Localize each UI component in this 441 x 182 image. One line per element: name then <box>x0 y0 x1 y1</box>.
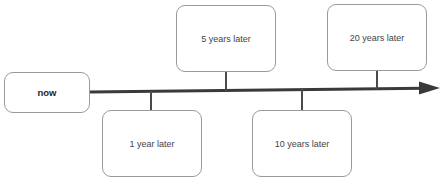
milestone-label: 1 year later <box>129 139 174 149</box>
milestone-label: 10 years later <box>275 139 330 149</box>
start-label: now <box>38 87 57 98</box>
milestone-label: 20 years later <box>350 33 405 43</box>
connector-20-years <box>376 70 378 89</box>
arrow-head-icon <box>419 82 440 95</box>
timeline-line <box>89 88 424 92</box>
connector-1-year <box>150 91 152 111</box>
connector-5-years <box>225 71 227 91</box>
milestone-20-years: 20 years later <box>327 4 427 71</box>
timeline-start-now: now <box>4 72 90 113</box>
milestone-5-years: 5 years later <box>176 5 276 72</box>
milestone-10-years: 10 years later <box>252 110 352 177</box>
milestone-label: 5 years later <box>201 34 251 44</box>
connector-10-years <box>301 89 303 111</box>
milestone-1-year: 1 year later <box>102 110 202 177</box>
